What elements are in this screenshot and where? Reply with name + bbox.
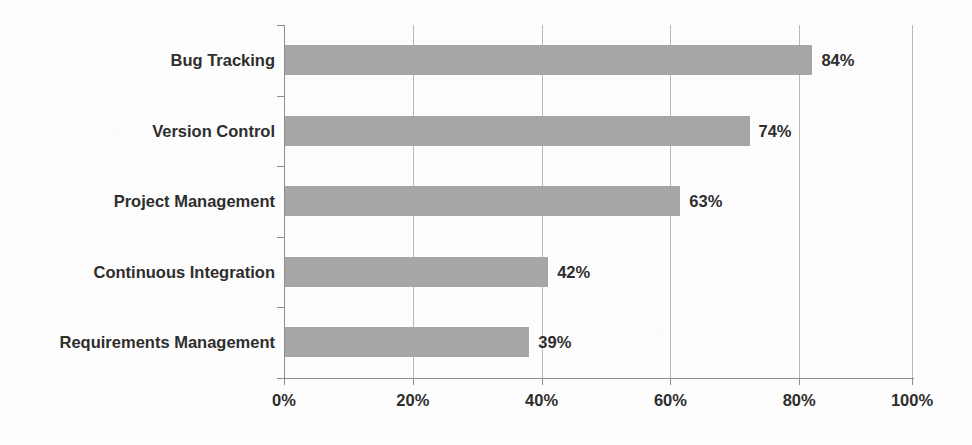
value-axis-tick [912, 378, 913, 385]
value-axis-tick [284, 378, 285, 385]
category-axis-tick [277, 307, 285, 308]
category-axis-tick [277, 166, 285, 167]
bar-value-label: 63% [680, 186, 722, 216]
value-axis-tick [542, 378, 543, 385]
category-label-requirements-management: Requirements Management [60, 307, 275, 378]
bar-project-management [284, 186, 680, 216]
bar-value-label: 39% [529, 327, 571, 357]
value-tick-label: 100% [867, 391, 957, 410]
bar-value-label: 84% [812, 45, 854, 75]
category-axis-line [284, 25, 285, 379]
value-axis-tick [670, 378, 671, 385]
bar-value-label: 42% [548, 257, 590, 287]
category-label-bug-tracking: Bug Tracking [170, 25, 275, 96]
category-axis-tick [277, 25, 285, 26]
value-tick-label: 40% [497, 391, 587, 410]
category-label-version-control: Version Control [152, 96, 275, 167]
bar-version-control [284, 116, 750, 146]
bar-requirements-management [284, 327, 529, 357]
value-tick-label: 0% [239, 391, 329, 410]
value-tick-label: 80% [754, 391, 844, 410]
value-axis-tick [413, 378, 414, 385]
category-axis-tick [277, 96, 285, 97]
gridline-80 [799, 25, 800, 378]
category-label-continuous-integration: Continuous Integration [94, 237, 275, 308]
value-tick-label: 20% [368, 391, 458, 410]
bar-value-label: 74% [750, 116, 792, 146]
bar-chart: 84% 74% 63% 42% 39% Bug Tracking V [0, 0, 972, 445]
value-tick-label: 60% [625, 391, 715, 410]
value-axis-line [284, 378, 914, 379]
category-axis-tick [277, 237, 285, 238]
bar-bug-tracking [284, 45, 812, 75]
category-label-project-management: Project Management [114, 166, 275, 237]
plot-area: 84% 74% 63% 42% 39% [284, 25, 913, 378]
gridline-100 [912, 25, 913, 378]
bar-continuous-integration [284, 257, 548, 287]
value-axis-tick [799, 378, 800, 385]
